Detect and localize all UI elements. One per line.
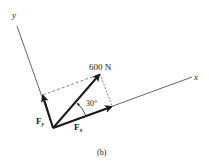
fx-label: Fx <box>74 122 83 133</box>
x-axis-label: x <box>193 72 198 82</box>
force-magnitude-label: 600 N <box>89 62 112 72</box>
angle-label: 30° <box>86 99 97 108</box>
fy-label: Fy <box>36 116 45 127</box>
figure-caption: (b) <box>97 148 107 157</box>
y-axis-label: y <box>11 10 16 20</box>
force-diagram: y x 600 N 30° Fy Fx (b) <box>0 0 209 165</box>
dashed-projection-x <box>100 74 112 106</box>
fx-subscript: x <box>79 127 83 133</box>
fy-arrow <box>43 96 53 128</box>
fy-subscript: y <box>41 121 45 127</box>
